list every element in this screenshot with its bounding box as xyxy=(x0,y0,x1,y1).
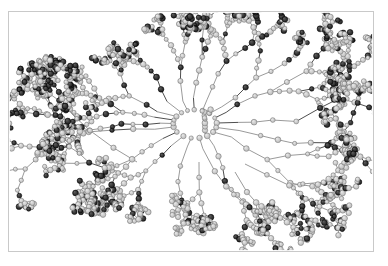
figure-root xyxy=(0,0,388,266)
figure-frame xyxy=(8,11,374,252)
molecule-structure-image xyxy=(9,12,373,251)
